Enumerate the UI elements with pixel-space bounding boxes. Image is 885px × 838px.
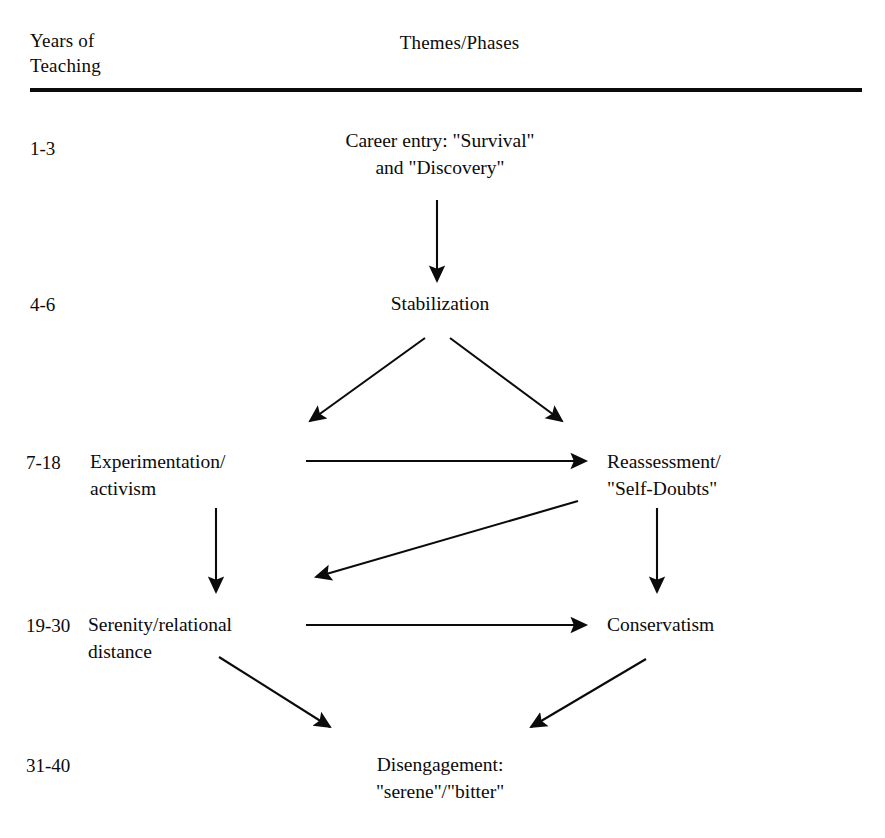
node-serenity-line1: Serenity/relational: [88, 611, 232, 638]
year-label-4-6: 4-6: [30, 292, 55, 317]
node-career-entry-line1: Career entry: "Survival": [280, 127, 600, 154]
year-label-1-3: 1-3: [30, 136, 55, 161]
node-career-entry-line2: and "Discovery": [280, 154, 600, 181]
node-reassessment-line2: "Self-Doubts": [607, 475, 721, 502]
diagram-page: Years of Teaching Themes/Phases 1-3 4-6 …: [0, 0, 885, 838]
arrow-layer: [0, 0, 885, 838]
arrow-stabilization-to-reassessment: [450, 338, 562, 421]
arrow-reassessment-to-experimentation: [316, 501, 578, 577]
header-divider-rule: [30, 88, 862, 92]
arrow-stabilization-to-experimentation: [310, 338, 425, 421]
arrow-serenity-to-disengagement: [219, 657, 330, 727]
arrow-conservatism-to-disengagement: [531, 659, 646, 727]
themes-header-label: Themes/Phases: [400, 30, 520, 55]
node-disengagement-line2: "serene"/"bitter": [280, 778, 600, 805]
column-header-themes: Themes/Phases: [0, 30, 885, 55]
node-conservatism: Conservatism: [607, 611, 714, 638]
node-conservatism-label: Conservatism: [607, 611, 714, 638]
node-experimentation-line2: activism: [90, 475, 225, 502]
node-stabilization-label: Stabilization: [280, 290, 600, 317]
node-experimentation-line1: Experimentation/: [90, 448, 225, 475]
year-label-7-18: 7-18: [26, 450, 61, 475]
node-stabilization: Stabilization: [280, 290, 600, 317]
node-experimentation: Experimentation/ activism: [90, 448, 225, 502]
year-label-19-30: 19-30: [26, 613, 70, 638]
node-career-entry: Career entry: "Survival" and "Discovery": [280, 127, 600, 181]
year-label-31-40: 31-40: [26, 753, 70, 778]
node-serenity: Serenity/relational distance: [88, 611, 232, 665]
node-reassessment: Reassessment/ "Self-Doubts": [607, 448, 721, 502]
node-disengagement: Disengagement: "serene"/"bitter": [280, 751, 600, 805]
years-header-line2: Teaching: [30, 53, 101, 78]
node-serenity-line2: distance: [88, 638, 232, 665]
node-reassessment-line1: Reassessment/: [607, 448, 721, 475]
node-disengagement-line1: Disengagement:: [280, 751, 600, 778]
